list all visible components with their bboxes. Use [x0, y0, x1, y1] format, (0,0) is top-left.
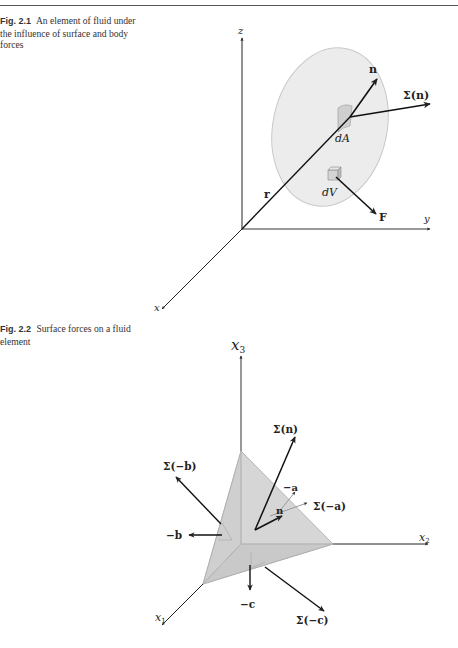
volume-element-label: dV — [322, 186, 338, 199]
x-axis — [162, 229, 242, 309]
x1-axis-label: x1 — [155, 611, 166, 625]
position-vector-label: r — [264, 188, 270, 201]
body-force-label: F — [379, 211, 387, 224]
x1-axis — [162, 584, 203, 625]
figure-2-1-diagram: z y x r n Σ(n) dA dV F — [154, 25, 430, 313]
y-axis-label: y — [423, 213, 430, 224]
n-label: n — [276, 505, 284, 516]
x3-axis-label: x3 — [231, 336, 245, 355]
sigma-n-label: Σ(n) — [273, 423, 298, 435]
volume-element-cube — [328, 167, 341, 180]
x-axis-label: x — [154, 302, 160, 313]
minus-a-label: −a — [283, 482, 298, 493]
sigma-minus-c-label: Σ(−c) — [296, 614, 329, 626]
stress-vector-label: Σ(n) — [403, 89, 429, 102]
area-element-label: dA — [335, 132, 350, 145]
sigma-minus-b-vector — [176, 477, 221, 524]
figures-canvas: z y x r n Σ(n) dA dV F — [0, 0, 458, 648]
x2-axis-label: x2 — [419, 531, 430, 545]
z-axis-label: z — [237, 25, 244, 36]
minus-c-label: −c — [240, 598, 255, 610]
sigma-minus-b-label: Σ(−b) — [163, 460, 197, 472]
normal-label: n — [369, 63, 377, 76]
sigma-minus-a-label: Σ(−a) — [313, 500, 346, 512]
sigma-minus-c-vector — [265, 567, 324, 611]
figure-2-2-diagram: x3 x2 x1 Σ(n) Σ(−b) −a Σ(−a) n −b −c Σ(−… — [155, 336, 430, 626]
minus-b-label: −b — [166, 529, 182, 541]
